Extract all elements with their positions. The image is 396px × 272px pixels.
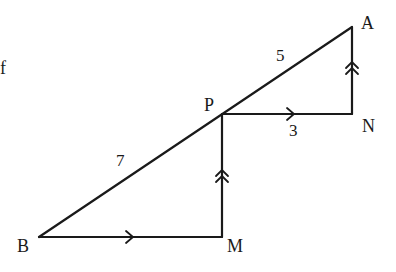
vertex-label-P: P: [204, 96, 214, 114]
vertex-label-B: B: [17, 237, 29, 255]
diagram-canvas: f A P N B M 5 3 7: [0, 0, 396, 272]
segment-BA: [39, 27, 352, 237]
cropped-text-fragment: f: [0, 59, 6, 77]
length-label-PB: 7: [116, 152, 125, 169]
vertex-label-M: M: [227, 237, 243, 255]
similar-triangles-figure: [0, 0, 396, 272]
vertex-label-A: A: [361, 14, 374, 32]
vertex-label-N: N: [362, 117, 375, 135]
length-label-PN: 3: [289, 122, 298, 139]
length-label-AP: 5: [276, 47, 285, 64]
